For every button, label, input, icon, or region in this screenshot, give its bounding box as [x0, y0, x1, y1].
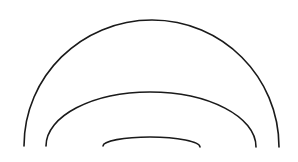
arc-diagram	[0, 0, 298, 162]
middle-arc	[46, 92, 256, 147]
outer-arc	[24, 20, 279, 147]
arcs-svg	[0, 0, 298, 162]
inner-arc	[103, 137, 200, 147]
